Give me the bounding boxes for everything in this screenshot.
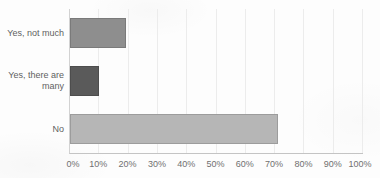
- gridline: [303, 9, 304, 153]
- x-tick-label: 80%: [294, 159, 312, 170]
- category-label: Yes, not much: [0, 28, 64, 39]
- x-tick-label: 0%: [66, 159, 79, 170]
- x-tick-label: 100%: [348, 159, 371, 170]
- plot-area: [69, 9, 363, 154]
- gridline: [362, 9, 363, 153]
- category-label: Yes, there are many: [0, 70, 64, 92]
- x-tick-label: 10%: [89, 159, 107, 170]
- bar-no: [70, 114, 278, 144]
- gridline: [333, 9, 334, 153]
- x-tick-label: 30%: [148, 159, 166, 170]
- x-tick-label: 60%: [236, 159, 254, 170]
- x-tick-label: 70%: [265, 159, 283, 170]
- category-label: No: [0, 124, 64, 135]
- bar-yes-there-are-many: [70, 66, 99, 96]
- x-tick-label: 90%: [324, 159, 342, 170]
- x-tick-label: 50%: [206, 159, 224, 170]
- horizontal-bar-chart: Yes, not muchYes, there are manyNo 0%10%…: [0, 0, 380, 178]
- x-tick-label: 20%: [119, 159, 137, 170]
- x-tick-label: 40%: [177, 159, 195, 170]
- bar-yes-not-much: [70, 18, 126, 48]
